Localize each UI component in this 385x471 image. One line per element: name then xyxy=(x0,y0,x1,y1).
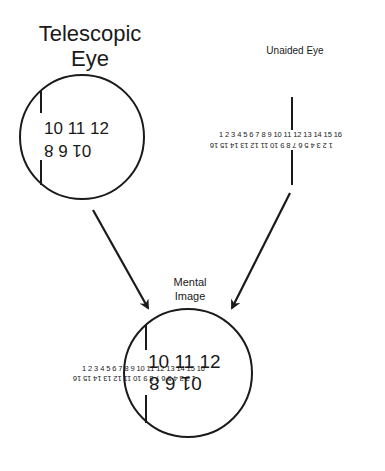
mental-label-line2: Image xyxy=(160,291,220,302)
mental-large-inverted-numbers: 01 6 8 xyxy=(149,374,202,393)
unaided-inverted-numbers: 1 2 3 4 5 6 7 8 9 10 11 12 13 14 15 16 xyxy=(210,141,333,149)
telescopic-upright-numbers: 10 11 12 xyxy=(44,120,109,137)
telescopic-inverted-numbers: 01 6 8 xyxy=(44,142,91,159)
unaided-inverted-text: 1 2 3 4 5 6 7 8 9 10 11 12 13 14 15 16 xyxy=(210,141,333,149)
unaided-label: Unaided Eye xyxy=(255,46,335,56)
arrow-telescopic-to-mental xyxy=(93,210,148,308)
telescopic-label-line1: Telescopic xyxy=(35,23,145,45)
mental-large-upright-numbers: 10 11 12 xyxy=(148,352,221,371)
diagram-canvas xyxy=(0,0,385,471)
telescopic-inverted-text: 01 6 8 xyxy=(44,142,91,159)
arrow-unaided-to-mental xyxy=(232,193,290,308)
mental-label-line1: Mental xyxy=(160,277,220,288)
telescopic-label-line2: Eye xyxy=(35,48,145,70)
mental-large-inverted-text: 01 6 8 xyxy=(149,374,202,393)
unaided-upright-numbers: 1 2 3 4 5 6 7 8 9 10 11 12 13 14 15 16 xyxy=(219,131,342,139)
